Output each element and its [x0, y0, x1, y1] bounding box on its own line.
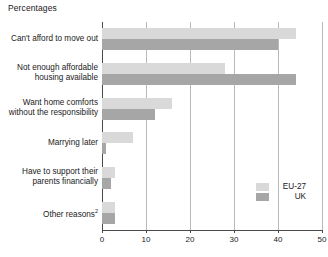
x-tick-label: 40 [274, 235, 283, 244]
x-tick [234, 230, 235, 233]
x-tick [146, 230, 147, 233]
bar-uk [102, 109, 155, 120]
x-tick [322, 230, 323, 233]
category-label: Marrying later [48, 138, 98, 148]
chart-title: Percentages [8, 3, 57, 13]
legend-label: EU-27 [272, 182, 306, 192]
bar-eu-27 [102, 98, 172, 109]
category-label: Have to support theirparents financially [22, 167, 98, 186]
bar-eu-27 [102, 132, 133, 143]
category-label: Want home comfortswithout the responsibi… [9, 98, 98, 117]
x-tick [102, 230, 103, 233]
bar-eu-27 [102, 167, 115, 178]
x-tick [278, 230, 279, 233]
bar-uk [102, 39, 278, 50]
x-tick-label: 0 [100, 235, 104, 244]
legend-swatch [256, 183, 269, 191]
x-tick-label: 10 [142, 235, 151, 244]
bar-eu-27 [102, 202, 115, 213]
legend-swatch [256, 193, 269, 201]
gridline [234, 22, 235, 230]
legend-label: UK [272, 192, 306, 202]
bar-chart: Percentages Can't afford to move outNot … [0, 0, 328, 257]
gridline [322, 22, 323, 230]
category-label: Other reasons2 [43, 207, 98, 219]
footnote-marker: 2 [95, 208, 98, 214]
bar-uk [102, 213, 115, 224]
bar-uk [102, 178, 111, 189]
category-labels: Can't afford to move outNot enough affor… [0, 22, 98, 230]
x-tick-label: 20 [186, 235, 195, 244]
x-tick [190, 230, 191, 233]
bar-uk [102, 143, 106, 154]
category-label: Can't afford to move out [11, 34, 98, 44]
bar-eu-27 [102, 28, 296, 39]
gridline [190, 22, 191, 230]
x-tick-label: 30 [230, 235, 239, 244]
bar-uk [102, 74, 296, 85]
y-axis-line [102, 22, 103, 230]
x-tick-label: 50 [318, 235, 327, 244]
gridline [146, 22, 147, 230]
category-label: Not enough affordablehousing available [17, 63, 98, 82]
bar-eu-27 [102, 63, 225, 74]
x-axis-line [102, 230, 322, 231]
